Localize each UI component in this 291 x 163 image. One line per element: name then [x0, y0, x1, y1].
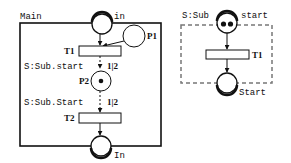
- place-start[interactable]: [217, 13, 237, 33]
- place-in-label: in: [114, 12, 125, 22]
- sub-net: S:Sub start T1 Start: [181, 11, 272, 98]
- place-Start[interactable]: [217, 73, 237, 93]
- place-In[interactable]: [91, 136, 111, 156]
- sync-label-Start: S:Sub.Start: [24, 98, 83, 108]
- sub-transition-t1[interactable]: [206, 50, 249, 59]
- transition-t1-label: T1: [64, 46, 75, 56]
- place-In-label: In: [114, 151, 125, 161]
- place-Start-label: Start: [239, 88, 266, 98]
- token: [228, 21, 233, 26]
- token: [99, 79, 104, 84]
- main-title: Main: [20, 12, 42, 22]
- place-p1-label: P1: [147, 31, 157, 41]
- sub-title: S:Sub: [182, 11, 209, 21]
- sync-mult-Start: 1|2: [107, 97, 118, 107]
- sync-label-start: S:Sub.start: [24, 62, 83, 72]
- token: [221, 21, 226, 26]
- place-p2-label: P2: [79, 76, 89, 86]
- place-in[interactable]: [92, 14, 112, 34]
- main-net: Main in P1 T1 S:Sub.start 1|2 P2 S:Sub.S…: [20, 12, 161, 161]
- arc-p1-t1: [103, 41, 124, 46]
- petri-net-diagram: Main in P1 T1 S:Sub.start 1|2 P2 S:Sub.S…: [0, 0, 291, 163]
- transition-t2[interactable]: [79, 113, 121, 123]
- place-p1[interactable]: [123, 25, 145, 47]
- transition-t1[interactable]: [79, 46, 121, 56]
- place-start-label: start: [241, 11, 268, 21]
- transition-t2-label: T2: [64, 113, 75, 123]
- sub-transition-t1-label: T1: [252, 50, 263, 60]
- sync-mult-start: 1|2: [107, 61, 118, 71]
